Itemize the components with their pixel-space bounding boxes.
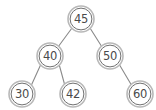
tree-edge-n45-to-n50 xyxy=(90,28,102,47)
node-label-60: 60 xyxy=(133,87,147,101)
tree-node-45: 45 xyxy=(68,6,94,32)
tree-node-60: 60 xyxy=(127,81,153,107)
tree-edge-n45-to-n40 xyxy=(58,28,72,47)
tree-edge-n50-to-n60 xyxy=(119,64,132,86)
tree-node-40: 40 xyxy=(37,43,63,69)
tree-canvas: 454050304260 xyxy=(0,0,156,110)
node-label-40: 40 xyxy=(43,49,57,63)
tree-node-42: 42 xyxy=(60,81,86,107)
tree-node-30: 30 xyxy=(9,81,35,107)
node-label-45: 45 xyxy=(74,12,88,26)
binary-tree-diagram: 454050304260 xyxy=(0,0,156,110)
tree-node-50: 50 xyxy=(97,43,123,69)
tree-nodes-group: 454050304260 xyxy=(9,6,153,107)
node-label-30: 30 xyxy=(15,87,29,101)
tree-edge-n40-to-n42 xyxy=(59,64,65,86)
node-label-42: 42 xyxy=(66,87,80,101)
tree-edge-n40-to-n30 xyxy=(31,64,41,86)
node-label-50: 50 xyxy=(103,49,117,63)
